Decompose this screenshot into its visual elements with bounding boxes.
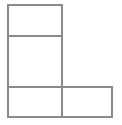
l-shape-diagram — [0, 0, 122, 125]
bottom-right-rectangle — [62, 87, 112, 117]
top-left-rectangle — [8, 5, 62, 36]
figure-canvas — [0, 0, 122, 125]
middle-left-rectangle — [8, 36, 62, 87]
bottom-left-rectangle — [8, 87, 62, 117]
